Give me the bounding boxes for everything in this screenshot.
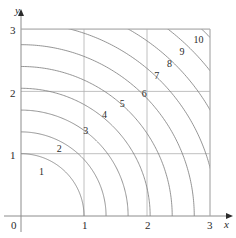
contour-plot-figure: 0 1 2 3 1 2 3 x y 12345678910 <box>0 0 236 238</box>
contour-curves <box>21 0 236 216</box>
contour-label-5: 5 <box>120 99 125 109</box>
x-tick-label-2: 2 <box>145 220 151 231</box>
contour-label-7: 7 <box>154 71 159 81</box>
origin-tick-label: 0 <box>11 220 17 231</box>
y-tick-label-3: 3 <box>10 25 16 36</box>
x-tick-label-1: 1 <box>82 220 88 231</box>
contour-label-1: 1 <box>39 167 44 177</box>
contour-label-10: 10 <box>193 35 203 45</box>
contour-label-3: 3 <box>83 126 88 136</box>
y-tick-label-1: 1 <box>10 150 16 161</box>
contour-label-4: 4 <box>102 110 107 120</box>
contour-label-2: 2 <box>57 144 62 154</box>
y-tick-label-2: 2 <box>10 88 16 99</box>
y-axis-title: y <box>15 5 20 16</box>
contour-label-9: 9 <box>180 47 185 57</box>
contour-label-8: 8 <box>167 59 172 69</box>
x-tick-label-3: 3 <box>207 220 213 231</box>
x-axis-title: x <box>224 219 229 230</box>
contour-label-6: 6 <box>142 89 147 99</box>
